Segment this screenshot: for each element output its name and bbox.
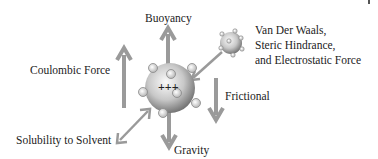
- coulombic-arrow: [117, 48, 131, 108]
- solubility-label: Solubility to Solvent: [16, 134, 112, 147]
- particle-forces-diagram: +++ Buoyancy Coulombic Force Van Der Waa…: [0, 0, 378, 159]
- charge-label: +++: [158, 80, 179, 94]
- vdw-label-line3: and Electrostatic Force: [255, 54, 361, 66]
- vdw-label-line1: Van Der Waals,: [255, 24, 326, 37]
- corner-mark: [368, 0, 370, 4]
- buoyancy-arrow: [161, 28, 175, 66]
- vdw-label-line2: Steric Hindrance,: [255, 39, 336, 52]
- frictional-label: Frictional: [225, 90, 270, 102]
- coulombic-label: Coulombic Force: [30, 64, 110, 76]
- buoyancy-label: Buoyancy: [145, 12, 192, 25]
- frictional-arrow: [209, 78, 223, 120]
- solubility-arrow: [117, 109, 150, 143]
- gravity-label: Gravity: [174, 144, 209, 157]
